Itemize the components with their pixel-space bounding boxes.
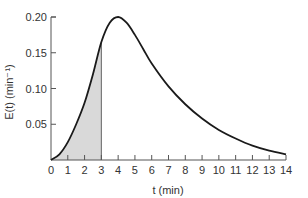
y-tick-label: 0.20: [26, 11, 47, 23]
x-tick-label: 13: [263, 164, 275, 176]
y-tick-label: 0.10: [26, 83, 47, 95]
chart: 01234567891011121314 0.050.100.150.20 t …: [0, 0, 308, 198]
y-tick-label: 0.05: [26, 118, 47, 130]
x-tick-label: 2: [82, 164, 88, 176]
x-tick-label: 7: [165, 164, 171, 176]
x-axis-label: t (min): [152, 184, 183, 196]
x-tick-label: 14: [280, 164, 292, 176]
x-tick-label: 9: [199, 164, 205, 176]
x-axis-ticks: 01234567891011121314: [48, 155, 292, 176]
x-tick-label: 5: [132, 164, 138, 176]
x-tick-label: 3: [98, 164, 104, 176]
x-tick-label: 10: [213, 164, 225, 176]
x-tick-label: 12: [246, 164, 258, 176]
x-tick-label: 1: [65, 164, 71, 176]
x-tick-label: 4: [115, 164, 121, 176]
x-tick-label: 0: [48, 164, 54, 176]
x-tick-label: 8: [182, 164, 188, 176]
x-tick-label: 11: [230, 164, 241, 176]
y-tick-label: 0.15: [26, 47, 47, 59]
x-tick-label: 6: [149, 164, 155, 176]
y-axis-label: E(t) (min⁻¹): [3, 64, 15, 120]
shaded-area-0-to-3: [51, 42, 101, 160]
